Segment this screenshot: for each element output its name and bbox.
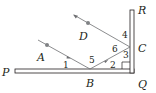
mirror-reflection-diagram: R C Q P B A D 1 5 2 3 6 4	[0, 0, 156, 93]
ray-a-dot	[45, 43, 49, 47]
ray-d-arrow-icon	[73, 15, 78, 19]
label-b: B	[85, 77, 94, 90]
label-q: Q	[138, 78, 147, 91]
label-p: P	[1, 66, 10, 79]
label-d: D	[78, 30, 88, 43]
label-r: R	[137, 4, 146, 17]
angle-4: 4	[122, 30, 128, 40]
angle-5: 5	[89, 55, 95, 65]
mirror-qr	[130, 10, 134, 73]
angle-6: 6	[112, 44, 118, 54]
label-c: C	[138, 42, 147, 55]
label-a: A	[36, 51, 45, 64]
ray-d-dot	[86, 21, 90, 25]
ray-a-arrow-icon	[67, 56, 72, 59]
angle-2: 2	[110, 60, 116, 70]
angle-1: 1	[63, 60, 69, 70]
mirror-pq	[15, 69, 134, 73]
right-angle-marker	[122, 62, 130, 69]
angle-3: 3	[123, 50, 129, 60]
